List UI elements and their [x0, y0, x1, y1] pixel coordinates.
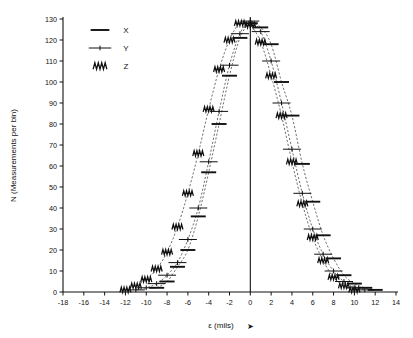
legend-group: XYZ [89, 26, 130, 71]
x-axis-tick-label: 14 [392, 298, 400, 307]
data-point-marker-y [273, 101, 291, 106]
x-axis-tick-label: -10 [141, 298, 151, 307]
series-x [149, 23, 383, 290]
data-point-marker-y [314, 252, 332, 257]
y-axis-title: N (Measurements per bin) [9, 109, 18, 202]
legend-item-y[interactable]: Y [89, 44, 130, 53]
data-point-marker-y [293, 191, 311, 196]
y-axis-tick-label: 80 [49, 120, 57, 129]
data-point-marker-y [283, 147, 301, 152]
legend-label-x: X [123, 26, 129, 35]
x-axis-tick-label: 12 [371, 298, 379, 307]
data-point-marker-z [318, 258, 329, 263]
data-point-marker-y [325, 269, 343, 274]
data-point-marker-y [210, 109, 228, 114]
y-axis-tick-label: 60 [49, 162, 57, 171]
x-axis-tick-label: -18 [58, 298, 68, 307]
legend-item-z[interactable]: Z [93, 62, 128, 71]
x-axis-tick-label: -4 [205, 298, 211, 307]
y-axis-tick-label: 20 [49, 246, 57, 255]
data-point-marker-y [262, 59, 280, 64]
x-axis-tick-label: -14 [99, 298, 109, 307]
x-axis-title: ε (mils) [208, 321, 234, 330]
y-axis-tick-label: 40 [49, 204, 57, 213]
data-point-marker-z [151, 266, 162, 271]
x-axis-tick-label: 0 [248, 298, 252, 307]
x-axis-tick-label: 2 [269, 298, 273, 307]
data-point-marker-y [168, 260, 186, 265]
x-axis-tick-label: -16 [79, 298, 89, 307]
data-point-marker-z [224, 37, 235, 42]
data-point-marker-y [200, 159, 218, 164]
data-point-marker-y [304, 227, 322, 232]
legend-label-y: Y [123, 44, 129, 53]
data-point-marker-y [189, 206, 207, 211]
data-point-marker-y [158, 273, 176, 278]
data-point-marker-y [179, 237, 197, 242]
x-axis-tick-label: -8 [164, 298, 170, 307]
legend-label-z: Z [124, 62, 129, 71]
x-axis-tick-label: 8 [332, 298, 336, 307]
data-point-marker-y [89, 46, 112, 51]
x-axis-tick-label: -12 [120, 298, 130, 307]
y-axis-tick-label: 100 [45, 78, 57, 87]
y-axis-tick-label: 0 [53, 288, 57, 297]
axes-group [60, 17, 399, 296]
y-axis-tick-label: 10 [49, 267, 57, 276]
legend-item-x[interactable]: X [91, 26, 130, 35]
data-series-group [120, 19, 383, 293]
y-axis-tick-label: 120 [45, 36, 57, 45]
series-z [120, 21, 360, 293]
data-point-marker-z [93, 63, 107, 70]
x-axis-tick-label: 10 [350, 298, 358, 307]
fit-curve-z [125, 22, 354, 290]
x-axis-tick-label: 6 [311, 298, 315, 307]
data-point-marker-z [328, 275, 339, 280]
y-axis-tick-label: 110 [46, 57, 57, 66]
y-axis-tick-label: 70 [49, 141, 57, 150]
data-point-marker-z [234, 21, 245, 26]
data-point-marker-z [141, 277, 152, 282]
y-axis-tick-label: 30 [49, 225, 57, 234]
distribution-chart: 0102030405060708090100110120130-18-16-14… [0, 0, 413, 338]
x-axis-tick-label: 4 [290, 298, 294, 307]
chart-figure: 0102030405060708090100110120130-18-16-14… [0, 0, 413, 338]
y-axis-tick-label: 50 [49, 183, 57, 192]
x-axis-direction-arrow-icon: ➤ [247, 322, 254, 331]
x-axis-tick-label: -2 [226, 298, 232, 307]
data-point-marker-z [276, 113, 287, 118]
y-axis-tick-label: 90 [49, 99, 57, 108]
x-axis-tick-label: -6 [185, 298, 191, 307]
y-axis-tick-label: 130 [45, 15, 57, 24]
